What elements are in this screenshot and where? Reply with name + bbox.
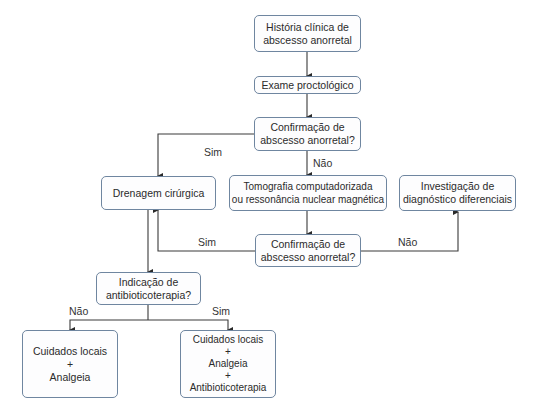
- node-exame-proctologico: Exame proctológico: [254, 76, 361, 94]
- node-confirmacao-1: Confirmação de abscesso anorretal?: [254, 117, 361, 151]
- node-label: História clínica de abscesso anorretal: [263, 21, 352, 47]
- node-label: Investigação de diagnóstico diferenciais: [403, 180, 512, 206]
- node-tomografia: Tomografia computadorizada ou ressonânci…: [229, 175, 387, 211]
- node-label: Confirmação de abscesso anorretal?: [260, 121, 355, 147]
- node-historia-clinica: História clínica de abscesso anorretal: [254, 15, 361, 52]
- node-label: Cuidados locais + Analgeia + Antibiotico…: [190, 334, 267, 394]
- node-indicacao-antibioticoterapia: Indicação de antibioticoterapia?: [96, 272, 201, 305]
- node-label: Cuidados locais + Analgeia: [33, 345, 107, 384]
- node-label: Exame proctológico: [261, 79, 353, 92]
- node-label: Indicação de antibioticoterapia?: [106, 276, 191, 302]
- edge-label-conf2-sim: Sim: [198, 236, 216, 248]
- node-label: Tomografia computadorizada ou ressonânci…: [232, 180, 384, 206]
- node-label: Confirmação de abscesso anorretal?: [261, 238, 356, 264]
- node-confirmacao-2: Confirmação de abscesso anorretal?: [255, 234, 361, 267]
- node-investigacao: Investigação de diagnóstico diferenciais: [399, 175, 516, 211]
- edge-label-ind-nao: Não: [69, 305, 88, 317]
- node-cuidados-analgeia: Cuidados locais + Analgeia: [22, 330, 118, 398]
- edge-label-conf2-nao: Não: [398, 236, 417, 248]
- node-cuidados-analgeia-antibioticoterapia: Cuidados locais + Analgeia + Antibiotico…: [180, 330, 276, 398]
- node-label: Drenagem cirúrgica: [113, 187, 205, 200]
- edge-label-conf1-sim: Sim: [204, 146, 222, 158]
- node-drenagem-cirurgica: Drenagem cirúrgica: [101, 176, 216, 210]
- edge-label-ind-sim: Sim: [212, 305, 230, 317]
- edge-label-conf1-nao: Não: [313, 157, 332, 169]
